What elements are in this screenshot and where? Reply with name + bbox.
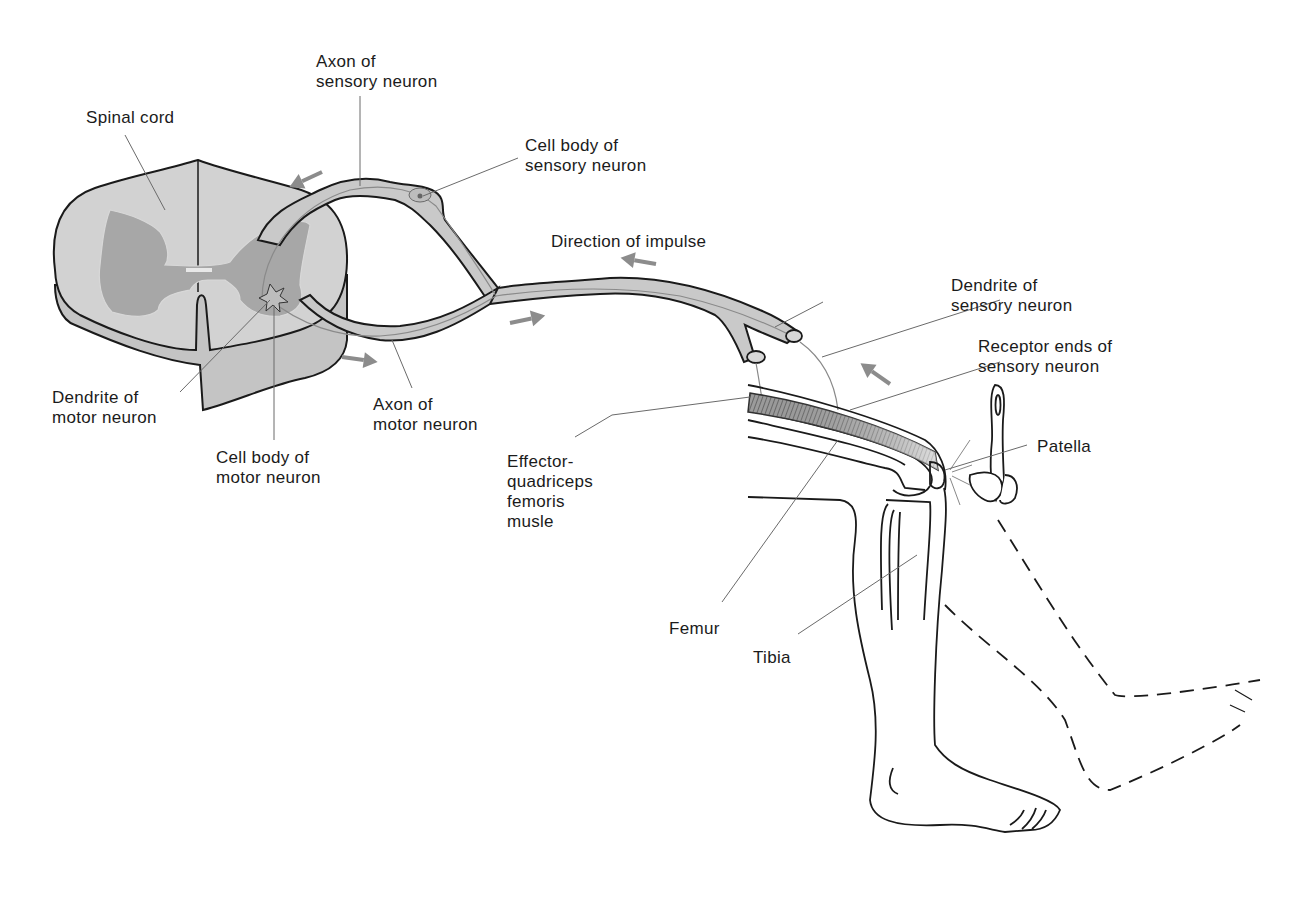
label-cell-body-sensory-neuron: Cell body of sensory neuron — [525, 136, 646, 176]
label-axon-sensory-neuron: Axon of sensory neuron — [316, 52, 437, 92]
arrow-impulse-sensory — [619, 250, 657, 272]
label-femur: Femur — [669, 619, 720, 639]
label-axon-motor-neuron: Axon of motor neuron — [373, 395, 478, 435]
arrow-dendrite-sensory — [856, 357, 895, 391]
label-spinal-cord: Spinal cord — [86, 108, 174, 128]
arrow-motor-axon-2 — [508, 308, 547, 331]
impact-lines — [950, 440, 972, 505]
leg-illustration — [748, 385, 1060, 832]
direction-arrows — [286, 165, 895, 391]
label-tibia: Tibia — [753, 648, 791, 668]
label-dendrite-sensory-neuron: Dendrite of sensory neuron — [951, 276, 1072, 316]
arrow-motor-axon-1 — [341, 349, 379, 370]
reflex-hammer — [970, 385, 1017, 504]
label-dendrite-motor-neuron: Dendrite of motor neuron — [52, 388, 157, 428]
label-patella: Patella — [1037, 437, 1091, 457]
label-direction-of-impulse: Direction of impulse — [551, 232, 706, 252]
extended-leg-dashed — [945, 520, 1260, 790]
label-effector-muscle: Effector- quadriceps femoris musle — [507, 452, 593, 532]
reflex-arc-diagram — [0, 0, 1303, 904]
label-cell-body-motor-neuron: Cell body of motor neuron — [216, 448, 321, 488]
label-receptor-ends: Receptor ends of sensory neuron — [978, 337, 1112, 377]
